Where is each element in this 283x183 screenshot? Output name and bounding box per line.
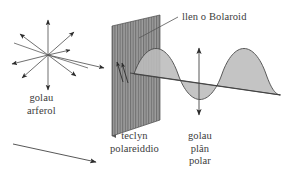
label-plane-polarised-line1: golau: [188, 130, 212, 143]
label-plane-polarised-line2: plân: [188, 143, 212, 156]
label-polaroid-sheet: llen o Bolaroid: [182, 11, 247, 24]
diagonal-arrow-icon: [13, 144, 96, 162]
label-polarising-device: teclyn polareiddio: [110, 130, 159, 155]
polarisation-diagram: llen o Bolaroid golau arferol teclyn pol…: [0, 0, 283, 183]
label-plane-polarised-light: golau plân polar: [188, 130, 212, 168]
radiating-arrows-icon: [12, 20, 88, 90]
label-plane-polarised-line3: polar: [188, 155, 212, 168]
label-polarising-device-line2: polareiddio: [110, 143, 159, 156]
label-normal-light-line1: golau: [27, 92, 56, 105]
label-normal-light-line2: arferol: [27, 105, 56, 118]
label-polarising-device-line1: teclyn: [110, 130, 159, 143]
label-normal-light: golau arferol: [27, 92, 56, 117]
label-polaroid-sheet-text: llen o Bolaroid: [182, 11, 247, 22]
